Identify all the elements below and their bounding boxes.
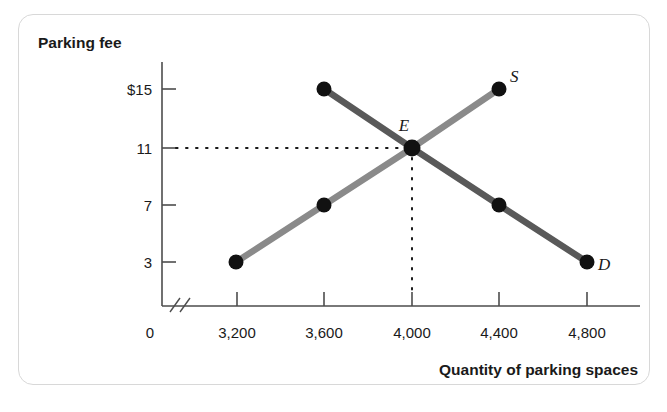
- x-tick-label-4800: 4,800: [568, 324, 606, 341]
- supply-curve-label: S: [510, 67, 519, 86]
- y-tick-label-7: 7: [144, 197, 152, 214]
- y-axis-ticks: [162, 89, 176, 262]
- figure-screenshot: Parking fee $15 11 7 3 0 3,200 3,600 4,0…: [0, 0, 667, 412]
- demand-curve-label: D: [597, 255, 611, 274]
- supply-point-4400: [492, 82, 507, 97]
- supply-point-3600: [317, 198, 332, 213]
- demand-point-4800: [580, 255, 595, 270]
- supply-curve: [229, 82, 507, 270]
- equilibrium-label: E: [398, 116, 410, 135]
- y-tick-label-15: $15: [127, 81, 152, 98]
- equilibrium-point: [404, 140, 421, 157]
- x-axis-ticks: [237, 292, 587, 306]
- demand-point-3600: [317, 82, 332, 97]
- axis-lines: [162, 62, 640, 306]
- y-axis-title: Parking fee: [38, 34, 122, 51]
- y-tick-label-3: 3: [144, 254, 152, 271]
- x-tick-label-3600: 3,600: [305, 324, 343, 341]
- origin-label: 0: [146, 324, 154, 341]
- x-tick-label-4000: 4,000: [393, 324, 431, 341]
- supply-demand-chart: Parking fee $15 11 7 3 0 3,200 3,600 4,0…: [0, 0, 667, 412]
- axis-break-icon: [170, 298, 190, 312]
- demand-curve: [317, 82, 595, 270]
- x-tick-label-4400: 4,400: [480, 324, 518, 341]
- y-tick-label-11: 11: [136, 140, 152, 157]
- x-tick-label-3200: 3,200: [218, 324, 256, 341]
- x-axis-title: Quantity of parking spaces: [439, 361, 638, 378]
- demand-point-4400: [492, 198, 507, 213]
- supply-point-3200: [229, 255, 244, 270]
